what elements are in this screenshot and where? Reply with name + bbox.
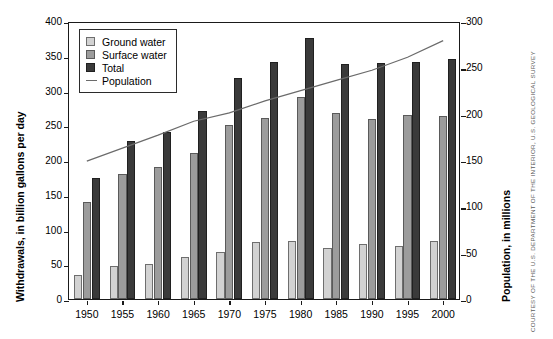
x-tick-label-2000: 2000 bbox=[431, 308, 454, 320]
x-tick bbox=[301, 301, 302, 305]
left-tick-label: 0 bbox=[56, 294, 69, 305]
right-axis-title: Population, in millions bbox=[500, 190, 512, 302]
left-tick-label: 200 bbox=[45, 155, 69, 166]
legend-swatch-icon bbox=[86, 76, 95, 85]
left-tick-label: 300 bbox=[45, 86, 69, 97]
x-tick-label-1950: 1950 bbox=[75, 308, 98, 320]
legend-swatch-icon bbox=[86, 50, 95, 59]
x-tick-label-1980: 1980 bbox=[289, 308, 312, 320]
x-tick bbox=[408, 301, 409, 305]
right-tick-label: 200 bbox=[459, 109, 483, 120]
x-tick-label-1990: 1990 bbox=[360, 308, 383, 320]
legend-swatch-icon bbox=[86, 37, 95, 46]
right-tick-label: 300 bbox=[459, 16, 483, 27]
x-tick-label-1965: 1965 bbox=[182, 308, 205, 320]
left-axis-title: Withdrawals, in billion gallons per day bbox=[14, 111, 26, 302]
left-tick-label: 350 bbox=[45, 51, 69, 62]
x-tick bbox=[443, 301, 444, 305]
x-tick-label-1985: 1985 bbox=[325, 308, 348, 320]
plot-area: 050100150200250300350400 050100150200250… bbox=[68, 22, 460, 300]
x-tick bbox=[229, 301, 230, 305]
right-tick-label: 250 bbox=[459, 62, 483, 73]
x-tick bbox=[122, 301, 123, 305]
right-tick-label: 0 bbox=[459, 294, 472, 305]
x-tick-label-1995: 1995 bbox=[396, 308, 419, 320]
x-tick-label-1960: 1960 bbox=[146, 308, 169, 320]
x-tick bbox=[372, 301, 373, 305]
legend-item-total: Total bbox=[86, 61, 167, 74]
x-tick bbox=[158, 301, 159, 305]
x-tick bbox=[194, 301, 195, 305]
credit-text: COURTESY OF THE U.S. DEPARTMENT OF THE I… bbox=[529, 51, 536, 332]
x-tick-label-1975: 1975 bbox=[253, 308, 276, 320]
right-tick-label: 50 bbox=[459, 248, 477, 259]
right-tick-label: 150 bbox=[459, 155, 483, 166]
left-tick-label: 250 bbox=[45, 120, 69, 131]
legend-item-label: Population bbox=[102, 75, 152, 87]
left-tick-label: 150 bbox=[45, 190, 69, 201]
legend-item-label: Total bbox=[102, 62, 124, 74]
x-tick-label-1955: 1955 bbox=[111, 308, 134, 320]
legend-item-ground-water: Ground water bbox=[86, 35, 167, 48]
chart-legend: Ground waterSurface waterTotalPopulation bbox=[79, 29, 177, 93]
x-tick bbox=[265, 301, 266, 305]
left-tick-label: 100 bbox=[45, 225, 69, 236]
legend-item-population: Population bbox=[86, 74, 167, 87]
legend-item-surface-water: Surface water bbox=[86, 48, 167, 61]
right-tick-label: 100 bbox=[459, 201, 483, 212]
legend-item-label: Surface water bbox=[102, 49, 167, 61]
x-tick bbox=[87, 301, 88, 305]
x-tick bbox=[336, 301, 337, 305]
legend-item-label: Ground water bbox=[102, 36, 166, 48]
chart-figure: Withdrawals, in billion gallons per day … bbox=[0, 0, 553, 339]
legend-swatch-icon bbox=[86, 63, 95, 72]
left-tick-label: 400 bbox=[45, 16, 69, 27]
left-tick-label: 50 bbox=[51, 259, 69, 270]
x-tick-label-1970: 1970 bbox=[218, 308, 241, 320]
